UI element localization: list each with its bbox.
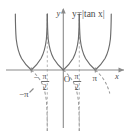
tick-label-pos-half-pi: π 2 <box>73 72 81 92</box>
tick-label-pos-pi: π <box>93 73 98 83</box>
solid-branch-origin-left <box>47 14 63 70</box>
origin-label: O <box>64 74 71 84</box>
leader-line-neg-pi <box>30 89 34 93</box>
neg-half-pi-numerator: π <box>43 72 47 81</box>
solid-branch-left-inner <box>31 14 47 70</box>
solid-branch-right-inner <box>79 14 95 70</box>
y-axis-arrowhead <box>61 8 66 14</box>
pos-half-pi-numerator: π <box>75 72 79 81</box>
neg-half-pi-sign: − <box>34 72 39 82</box>
dashed-branch-right <box>95 70 110 94</box>
math-figure-tan-abs: x y y=|tan x| O −π − π 2 π 2 π <box>0 0 136 135</box>
equation-label: y=|tan x| <box>72 9 105 19</box>
x-axis-arrowhead <box>119 68 125 73</box>
graph-canvas: x y y=|tan x| O −π − π 2 π 2 π <box>0 0 136 135</box>
pos-half-pi-denominator: 2 <box>75 83 79 92</box>
y-axis-label: y <box>56 8 61 18</box>
tick-label-neg-pi: −π <box>19 89 29 99</box>
solid-branch-farleft <box>15 14 31 70</box>
solid-branch-origin-right <box>63 14 79 70</box>
x-axis-label: x <box>114 71 119 81</box>
neg-half-pi-denominator: 2 <box>43 83 47 92</box>
solid-branch-farright <box>95 14 111 70</box>
